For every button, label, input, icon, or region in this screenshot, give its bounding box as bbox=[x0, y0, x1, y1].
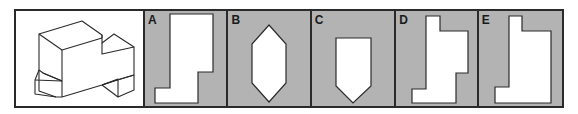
option-e[interactable]: E bbox=[479, 11, 562, 106]
isometric-block-figure bbox=[16, 11, 144, 106]
question-panel bbox=[16, 11, 145, 106]
option-c[interactable]: C bbox=[312, 11, 396, 106]
option-d[interactable]: D bbox=[396, 11, 478, 106]
stepped-shape-icon bbox=[396, 11, 477, 106]
pentagon-icon bbox=[312, 11, 395, 106]
notched-l-shape-icon bbox=[479, 11, 561, 106]
hexagon-icon bbox=[228, 11, 310, 106]
l-shape-icon bbox=[145, 11, 227, 106]
puzzle-frame: A B C D E bbox=[14, 9, 564, 108]
option-a[interactable]: A bbox=[145, 11, 228, 106]
option-b[interactable]: B bbox=[228, 11, 311, 106]
